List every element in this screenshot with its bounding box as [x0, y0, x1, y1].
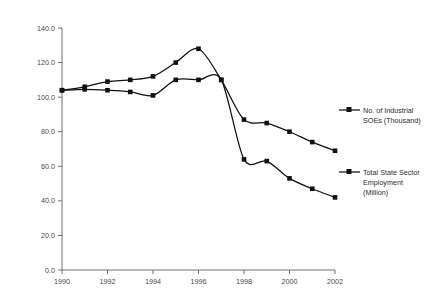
x-tick-group: 1990199219941996199820002002 — [54, 270, 343, 286]
x-tick-label-4: 1998 — [236, 277, 252, 286]
data-point-1-11 — [310, 140, 315, 145]
legend: No. of Industrial SOEs (Thousand) Total … — [339, 106, 421, 197]
legend-label-employment-line1: Total State Sector — [363, 168, 420, 177]
y-tick-label-2: 40.0 — [41, 196, 55, 205]
data-point-1-4 — [151, 74, 156, 79]
series-0 — [60, 75, 338, 200]
data-point-0-11 — [310, 186, 315, 191]
data-point-0-10 — [287, 176, 292, 181]
data-point-0-8 — [242, 157, 247, 162]
data-point-1-5 — [173, 60, 178, 65]
legend-marker-soes — [347, 107, 352, 112]
x-tick-label-5: 2000 — [282, 277, 298, 286]
x-axis-group: 1990199219941996199820002002 — [54, 270, 343, 286]
data-point-1-0 — [60, 88, 65, 93]
data-point-0-3 — [128, 90, 133, 95]
data-point-1-6 — [196, 46, 201, 51]
data-point-0-5 — [173, 78, 178, 83]
legend-label-employment-line3: (Million) — [363, 188, 388, 197]
y-axis-group: 0.020.040.060.080.0100.0120.0140.0 — [37, 24, 62, 275]
y-tick-label-0: 0.0 — [45, 266, 55, 275]
y-tick-label-3: 60.0 — [41, 162, 55, 171]
data-point-0-6 — [196, 78, 201, 83]
y-tick-label-1: 20.0 — [41, 231, 55, 240]
data-point-1-1 — [82, 84, 87, 89]
data-point-1-12 — [333, 148, 338, 153]
x-tick-label-2: 1994 — [145, 277, 161, 286]
legend-label-employment-line2: Employment — [363, 178, 403, 187]
data-point-0-4 — [151, 93, 156, 98]
chart-container: 0.020.040.060.080.0100.0120.0140.0 19901… — [0, 0, 430, 307]
data-point-1-8 — [242, 117, 247, 122]
y-tick-label-7: 140.0 — [37, 24, 55, 33]
line-chart: 0.020.040.060.080.0100.0120.0140.0 19901… — [0, 0, 430, 307]
legend-label-soes-line2: SOEs (Thousand) — [363, 116, 421, 125]
series-1 — [60, 46, 338, 153]
series-group — [60, 46, 338, 199]
data-point-1-10 — [287, 129, 292, 134]
legend-marker-employment — [347, 169, 352, 174]
data-point-1-9 — [264, 121, 269, 126]
legend-entry-employment: Total State Sector Employment (Million) — [339, 168, 420, 197]
data-point-0-9 — [264, 159, 269, 164]
legend-entry-soes: No. of Industrial SOEs (Thousand) — [339, 106, 421, 125]
data-point-1-3 — [128, 78, 133, 83]
y-tick-label-4: 80.0 — [41, 127, 55, 136]
x-tick-label-1: 1992 — [100, 277, 116, 286]
x-tick-label-3: 1996 — [191, 277, 207, 286]
data-point-0-12 — [333, 195, 338, 200]
series-line-0 — [62, 75, 335, 198]
data-point-1-2 — [105, 79, 110, 84]
data-point-1-7 — [219, 78, 224, 83]
x-tick-label-0: 1990 — [54, 277, 70, 286]
legend-label-soes-line1: No. of Industrial — [363, 106, 414, 115]
y-tick-label-5: 100.0 — [37, 93, 55, 102]
data-point-0-2 — [105, 88, 110, 93]
x-tick-label-6: 2002 — [327, 277, 343, 286]
y-tick-group: 0.020.040.060.080.0100.0120.0140.0 — [37, 24, 62, 275]
series-line-1 — [62, 48, 335, 150]
y-tick-label-6: 120.0 — [37, 58, 55, 67]
